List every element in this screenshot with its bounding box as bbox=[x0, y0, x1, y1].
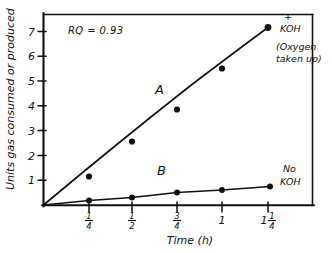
x-tick-one-quarter-denominator: 4 bbox=[269, 221, 274, 231]
respiratory-quotient-chart: 1 2 3 4 5 6 7 Units gas consumed or prod… bbox=[0, 0, 332, 253]
x-tick-quarter-numerator: 1 bbox=[86, 211, 91, 221]
oxygen-note-line-2: taken up) bbox=[276, 53, 322, 64]
plus-sign-label: + bbox=[284, 11, 292, 22]
series-a-point bbox=[174, 106, 180, 112]
series-b-point bbox=[219, 187, 225, 193]
x-axis-title: Time (h) bbox=[167, 234, 213, 247]
x-tick-half-denominator: 2 bbox=[129, 221, 134, 231]
series-a-point bbox=[219, 65, 225, 71]
y-axis-title: Units gas consumed or produced bbox=[4, 7, 17, 190]
series-a-point bbox=[86, 173, 92, 179]
y-tick-label-3: 3 bbox=[28, 125, 35, 138]
y-tick-label-2: 2 bbox=[28, 150, 35, 163]
no-label: No bbox=[283, 163, 296, 174]
no-koh-label: KOH bbox=[280, 176, 301, 187]
series-a-point bbox=[129, 138, 135, 144]
x-tick-one-quarter-whole: 1 bbox=[261, 214, 268, 227]
series-b-point bbox=[86, 198, 92, 204]
koh-label: KOH bbox=[280, 23, 301, 34]
x-tick-quarter-denominator: 4 bbox=[86, 221, 91, 231]
series-b-point bbox=[267, 184, 273, 190]
rq-annotation: RQ = 0.93 bbox=[68, 25, 123, 36]
y-tick-label-5: 5 bbox=[28, 75, 35, 88]
series-b-point bbox=[129, 195, 135, 201]
chart-background bbox=[0, 0, 332, 253]
series-a-point bbox=[265, 24, 272, 31]
y-tick-label-4: 4 bbox=[28, 100, 35, 113]
oxygen-note-line-1: (Oxygen bbox=[276, 41, 316, 52]
x-tick-three-quarter-numerator: 3 bbox=[174, 211, 179, 221]
chart-page: 1 2 3 4 5 6 7 Units gas consumed or prod… bbox=[0, 0, 332, 253]
x-tick-label-one: 1 bbox=[219, 214, 226, 227]
series-b-label: B bbox=[157, 163, 166, 178]
x-tick-half-numerator: 1 bbox=[129, 211, 134, 221]
series-a-label: A bbox=[154, 82, 164, 97]
y-tick-label-6: 6 bbox=[28, 50, 35, 63]
y-tick-label-1: 1 bbox=[28, 174, 35, 187]
x-tick-one-quarter-numerator: 1 bbox=[269, 211, 274, 221]
y-tick-label-7: 7 bbox=[28, 26, 35, 39]
series-b-point bbox=[174, 190, 180, 196]
x-tick-three-quarter-denominator: 4 bbox=[174, 221, 179, 231]
